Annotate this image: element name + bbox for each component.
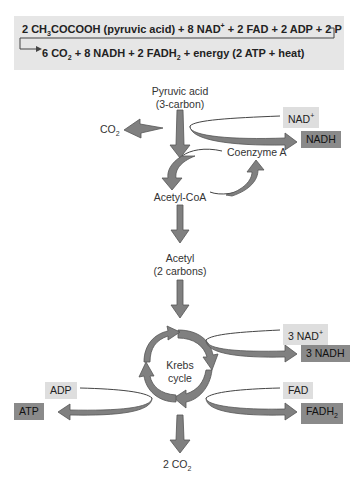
pyruvic-acid-label: Pyruvic acid(3-carbon) — [150, 85, 210, 111]
acetyl-coa-label: Acetyl-CoA — [150, 191, 210, 204]
fad-box: FAD — [283, 382, 313, 399]
adp-box: ADP — [45, 382, 77, 399]
left-arrow-co2 — [124, 119, 163, 138]
fad-to-fadh2-arrow — [206, 398, 297, 420]
krebs-cycle-label: Krebscycle — [160, 359, 200, 385]
nadh3-box: 3 NADH — [301, 345, 350, 362]
adp-to-atp-arrow — [58, 398, 152, 420]
acetyl-label: Acetyl(2 carbons) — [145, 252, 215, 278]
nad3-box: 3 NAD+ — [283, 324, 328, 345]
down-arrow-acetyl — [171, 280, 189, 318]
down-arrow-co2 — [170, 415, 190, 453]
co2-top-label: CO2 — [100, 123, 120, 140]
nad-plus-box: NAD+ — [283, 107, 319, 128]
co2-bottom-label: 2 CO2 — [163, 458, 191, 475]
down-arrow-pyruvic — [170, 110, 190, 158]
equation-bracket-arrow — [20, 28, 334, 52]
nadh-box: NADH — [301, 131, 341, 148]
coenzyme-a-label: Coenzyme A — [227, 146, 287, 159]
acetyl-coa-return-arrow — [226, 160, 264, 196]
coenzyme-a-arrow — [162, 156, 195, 190]
fadh2-box: FADH2 — [301, 403, 343, 424]
atp-box: ATP — [14, 403, 44, 420]
down-arrow-acetyl-coa — [171, 205, 189, 243]
